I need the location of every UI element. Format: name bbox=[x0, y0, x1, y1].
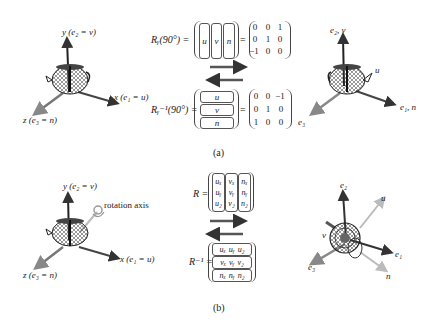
matrix-cell: 1 bbox=[262, 104, 274, 114]
rotation-lhs: Rᵧ(90°) = bbox=[151, 34, 189, 45]
e2-v-label: e₂, v bbox=[330, 25, 346, 35]
panel-a-left-figure bbox=[36, 40, 116, 113]
matrix-cell: 0 bbox=[250, 104, 262, 114]
inverse-lhs: Rᵧ⁻¹(90°) = bbox=[151, 104, 198, 115]
row-u: uₓ uᵧ u₂ bbox=[212, 243, 252, 256]
row-u: u bbox=[200, 91, 234, 103]
teapot-icon bbox=[46, 218, 88, 246]
matrix-cell: 0 bbox=[262, 117, 274, 127]
matrix-cell: 0 bbox=[249, 22, 261, 32]
u-label: u bbox=[381, 193, 386, 203]
x-axis-label: x (e₁ = u) bbox=[120, 254, 154, 264]
row-v: v bbox=[200, 104, 234, 116]
y-axis-label: y (e₂ = v) bbox=[63, 181, 97, 191]
panel-a-right-figure bbox=[313, 36, 393, 113]
matrix-cell: 1 bbox=[262, 34, 274, 44]
e1-label: e₁ bbox=[395, 249, 402, 259]
matrix-cell: −1 bbox=[248, 46, 260, 56]
e3-label: e₃ bbox=[308, 262, 315, 272]
matrix-cell: 0 bbox=[249, 34, 261, 44]
row-v: vₓ vᵧ v₂ bbox=[212, 256, 252, 269]
column-v: v bbox=[211, 23, 222, 59]
matrix-cell: 0 bbox=[250, 91, 262, 101]
column-u: uₓ uᵧ u₂ bbox=[212, 173, 225, 212]
v-label: v bbox=[322, 230, 326, 240]
e1-n-label: e₁, n bbox=[400, 102, 416, 112]
rotation-axis-label: rotation axis bbox=[104, 200, 149, 210]
rotation-lhs: R = bbox=[193, 188, 208, 199]
caption-b: (b) bbox=[213, 302, 225, 313]
teapot-icon bbox=[330, 223, 362, 258]
matrix-cell: 0 bbox=[262, 91, 274, 101]
column-u: u bbox=[199, 23, 210, 59]
e2-label: e₂ bbox=[340, 180, 347, 190]
z-axis-label: z (e₃ = n) bbox=[23, 115, 57, 125]
z-axis-label: z (e₃ = n) bbox=[23, 270, 57, 280]
z-axis bbox=[36, 93, 63, 113]
teapot-icon bbox=[46, 64, 90, 94]
column-v: vₓ vᵧ v₂ bbox=[225, 173, 238, 212]
n-label: n bbox=[386, 271, 391, 281]
row-n: n bbox=[200, 117, 234, 129]
u-label: u bbox=[375, 65, 380, 75]
caption-a: (a) bbox=[213, 147, 224, 158]
right-paren bbox=[232, 21, 239, 59]
matrix-cell: 1 bbox=[250, 117, 262, 127]
teapot-icon bbox=[328, 64, 372, 94]
x-axis-label: x (e₁ = u) bbox=[114, 92, 148, 102]
rotation-axis-icon bbox=[93, 206, 104, 217]
matrix-cell: 0 bbox=[262, 22, 274, 32]
matrix-cell: 0 bbox=[262, 46, 274, 56]
row-n: nₓ nᵧ n₂ bbox=[212, 269, 252, 282]
y-axis-label: y (e₂ = v) bbox=[62, 27, 96, 37]
e3-label: e₃ bbox=[298, 117, 305, 127]
x-axis bbox=[78, 92, 116, 103]
